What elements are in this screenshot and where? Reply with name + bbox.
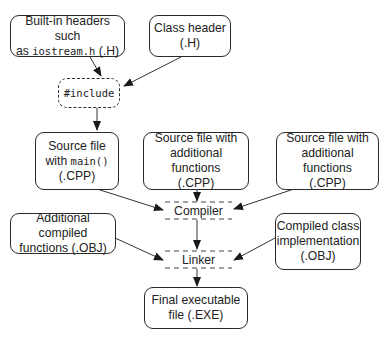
node-source-main: Source file with main() (.CPP) (35, 132, 119, 190)
iostream-code: iostream.h (32, 45, 95, 57)
arrow-source-main-to-compiler (97, 189, 163, 210)
arrow-builtin-to-include (90, 57, 101, 76)
arrow-class-impl-to-linker (234, 238, 275, 260)
arrow-class-to-include (124, 57, 181, 86)
include-label: #include (64, 87, 115, 99)
node-additional-compiled: Additional compiled functions (.OBJ) (10, 213, 116, 254)
compiler-label: Compiler (174, 204, 223, 218)
node-compiler: Compiler (165, 203, 232, 219)
arrow-additional-to-linker (115, 238, 163, 260)
node-source-additional-2: Source file with additional functions (.… (276, 132, 379, 190)
node-class-header: Class header (.H) (149, 15, 231, 57)
linker-label: Linker (182, 253, 215, 267)
node-linker: Linker (165, 252, 232, 268)
main-code: main() (71, 155, 109, 167)
node-final-exe: Final executable file (.EXE) (144, 287, 248, 329)
node-builtin-headers: Built-in headers such as iostream.h (.H) (10, 15, 125, 57)
builtin-headers-line1: Built-in headers such (11, 14, 124, 44)
node-source-additional-1: Source file with additional functions (.… (143, 132, 249, 190)
node-compiled-class: Compiled class implementation (.OBJ) (275, 213, 361, 270)
arrow-source-add2-to-compiler (234, 189, 294, 209)
node-include: #include (58, 78, 120, 108)
